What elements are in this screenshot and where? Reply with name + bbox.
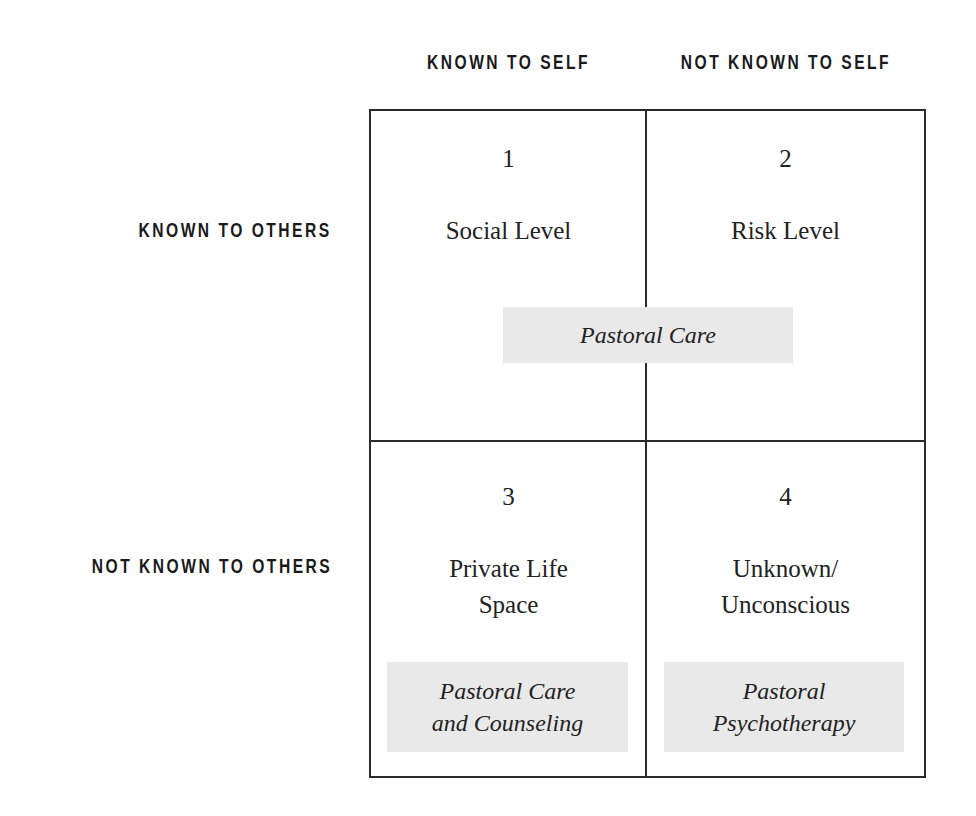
care-label-text-line-1: Pastoral Care (440, 675, 576, 707)
care-label-text: Pastoral Care (580, 319, 716, 351)
column-header-not-known-to-self: NOT KNOWN TO SELF (669, 50, 903, 74)
care-label-pastoral-psychotherapy: Pastoral Psychotherapy (664, 662, 904, 752)
grid-border-bottom (370, 776, 926, 778)
grid-border-right (924, 109, 926, 778)
care-label-text-line-2: Psychotherapy (713, 707, 856, 739)
care-label-text-line-1: Pastoral (743, 675, 826, 707)
quadrant-number: 1 (371, 142, 646, 175)
quadrant-title-line-1: Unknown/ (647, 552, 924, 585)
grid-divider-vertical-top-segment (645, 111, 647, 307)
grid-divider-horizontal (370, 440, 926, 442)
grid-border-top (370, 109, 926, 111)
row-header-not-known-to-others: NOT KNOWN TO OTHERS (92, 554, 332, 578)
grid-border-left (369, 109, 371, 778)
quadrant-title-line-1: Private Life (371, 552, 646, 585)
care-label-text-line-2: and Counseling (432, 707, 583, 739)
grid-divider-vertical-bottom-segment (645, 363, 647, 441)
quadrant-number: 4 (647, 480, 924, 513)
row-header-known-to-others: KNOWN TO OTHERS (139, 218, 332, 242)
quadrant-number: 2 (647, 142, 924, 175)
column-header-known-to-self: KNOWN TO SELF (400, 50, 616, 74)
quadrant-number: 3 (371, 480, 646, 513)
care-label-pastoral-care-and-counseling: Pastoral Care and Counseling (387, 662, 628, 752)
care-label-pastoral-care: Pastoral Care (503, 307, 793, 363)
quadrant-title: Social Level (371, 214, 646, 247)
quadrant-title-line-2: Space (371, 588, 646, 621)
quadrant-title-line-2: Unconscious (647, 588, 924, 621)
quadrant-title: Risk Level (647, 214, 924, 247)
